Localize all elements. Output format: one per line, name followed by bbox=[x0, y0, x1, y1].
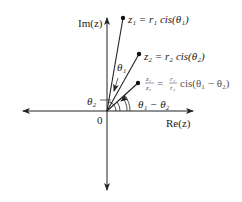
real-axis-label: Re(z) bbox=[166, 117, 191, 130]
quotient-eq: = bbox=[157, 77, 163, 89]
theta2-label: θ₂ bbox=[87, 95, 96, 107]
quotient-rhs-num: r₁ bbox=[170, 75, 175, 83]
theta-diff-label: θ₁ − θ₂ bbox=[138, 98, 170, 110]
imaginary-axis-label: Im(z) bbox=[78, 17, 103, 30]
theta1-label: θ₁ bbox=[117, 61, 126, 73]
quotient-label: z₁ z₂ = r₁ r₂ cis(θ₁ − θ₂) bbox=[145, 75, 230, 92]
theta1-pointer bbox=[114, 78, 118, 91]
arc-diff-inner bbox=[122, 97, 127, 111]
origin-label: 0 bbox=[97, 114, 103, 126]
point-quotient bbox=[136, 81, 140, 85]
quotient-lhs-den: z₂ bbox=[145, 84, 152, 92]
z1-label: z₁ = r₁ cis(θ₁) bbox=[127, 13, 189, 26]
z2-label: z₂ = r₂ cis(θ₂) bbox=[143, 50, 205, 63]
quotient-rhs-den: r₂ bbox=[170, 84, 176, 92]
point-z2 bbox=[137, 52, 141, 56]
arc-theta2 bbox=[117, 102, 120, 111]
quotient-rhs-tail: cis(θ₁ − θ₂) bbox=[180, 77, 230, 90]
point-z1 bbox=[121, 16, 125, 20]
complex-plane-diagram: Im(z) Re(z) 0 z₁ = r₁ cis(θ₁) z₂ = r₂ ci… bbox=[0, 0, 242, 202]
quotient-lhs-num: z₁ bbox=[145, 75, 151, 83]
